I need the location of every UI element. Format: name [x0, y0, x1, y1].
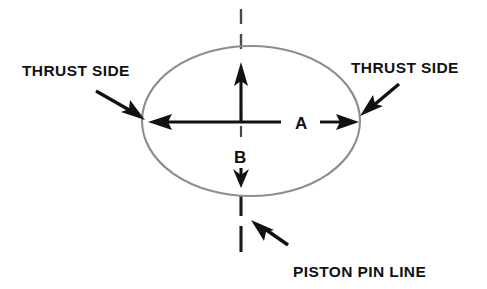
diagram-canvas: THRUST SIDE THRUST SIDE PISTON PIN LINE … [0, 0, 487, 289]
thrust-side-right-pointer [360, 84, 399, 116]
arrow-down-right-icon [121, 100, 145, 120]
thrust-right-leader-shaft [374, 84, 399, 105]
arrow-up-left-icon [251, 220, 274, 241]
axis-a-label: A [295, 114, 308, 133]
axis-b-label: B [234, 148, 247, 167]
thrust-side-right-label: THRUST SIDE [351, 59, 459, 76]
thrust-side-left-pointer [96, 91, 145, 120]
axis-a-arrow-group [148, 114, 359, 130]
axis-b-arrow-group [233, 62, 249, 188]
piston-thrust-diagram: THRUST SIDE THRUST SIDE PISTON PIN LINE … [0, 0, 487, 289]
piston-pin-line-label: PISTON PIN LINE [293, 263, 426, 280]
piston-pin-line-pointer [251, 220, 288, 245]
thrust-left-leader-shaft [96, 91, 131, 111]
thrust-side-left-label: THRUST SIDE [22, 62, 130, 79]
pin-leader-shaft [265, 229, 288, 245]
